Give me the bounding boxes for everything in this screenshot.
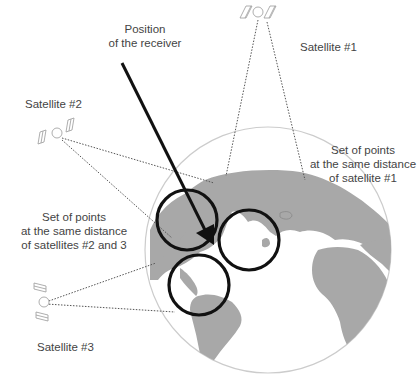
- sphere-23-label-line2: at the same distance: [18, 224, 130, 238]
- satellite-3-icon: [34, 283, 49, 321]
- sphere-1-label-line1: Set of points: [308, 143, 417, 157]
- satellite-1-label: Satellite #1: [300, 40, 357, 54]
- sphere-1-label-line3: of satellite #1: [308, 171, 417, 185]
- sphere-1-label-line2: at the same distance: [308, 157, 417, 171]
- sphere-23-label-line3: of satellites #2 and 3: [18, 238, 130, 252]
- receiver-label: Position of the receiver: [100, 22, 190, 50]
- gps-diagram-canvas: [0, 0, 417, 378]
- satellite-3-label: Satellite #3: [37, 340, 94, 354]
- sphere-1-label: Set of points at the same distance of sa…: [308, 143, 417, 185]
- receiver-label-line1: Position: [100, 22, 190, 36]
- satellite-1-icon: [240, 6, 276, 18]
- sphere-23-label-line1: Set of points: [18, 210, 130, 224]
- receiver-label-line2: of the receiver: [100, 36, 190, 50]
- satellite-2-label: Satellite #2: [25, 97, 82, 111]
- sphere-23-label: Set of points at the same distance of sa…: [18, 210, 130, 252]
